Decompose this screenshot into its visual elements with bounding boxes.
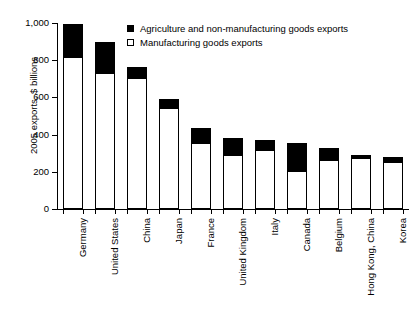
bar-segment-manufacturing [319, 160, 339, 209]
x-tick [319, 209, 320, 214]
bar-group [319, 148, 339, 209]
bars-container [57, 23, 409, 209]
x-tick [223, 209, 224, 214]
x-tick [115, 209, 116, 214]
x-axis-label: Hong Kong, China [365, 218, 376, 296]
bar-segment-manufacturing [95, 73, 115, 209]
x-tick [211, 209, 212, 214]
y-tick-label: 200 [17, 166, 49, 177]
bar-segment-manufacturing [383, 162, 403, 209]
bar-group [287, 143, 307, 209]
bar-segment-agriculture [95, 42, 115, 74]
bar-segment-agriculture [255, 140, 275, 150]
bar-group [95, 42, 115, 209]
x-axis-label: Belgium [333, 218, 344, 252]
bar-segment-agriculture [383, 157, 403, 162]
bar-segment-manufacturing [223, 155, 243, 209]
bar-segment-agriculture [223, 138, 243, 155]
bar-segment-manufacturing [255, 150, 275, 209]
bar-group [255, 140, 275, 209]
x-axis-label: Korea [397, 218, 408, 243]
bar-group [383, 157, 403, 209]
x-tick [83, 209, 84, 214]
x-axis-label: United States [109, 218, 120, 275]
bar-group [159, 99, 179, 209]
y-tick: 0 [52, 209, 57, 210]
x-axis-label: Japan [173, 218, 184, 244]
x-tick [287, 209, 288, 214]
x-tick [383, 209, 384, 214]
legend-label: Manufacturing goods exports [140, 37, 263, 48]
legend-label: Agriculture and non-manufacturing goods … [140, 23, 348, 34]
x-axis-label: Canada [301, 218, 312, 251]
y-tick-label: 800 [17, 54, 49, 65]
x-tick [147, 209, 148, 214]
x-tick [179, 209, 180, 214]
legend-swatch-open-icon [127, 39, 134, 46]
x-tick [95, 209, 96, 214]
x-axis-label: United Kingdom [237, 218, 248, 286]
bar-segment-manufacturing [63, 57, 83, 209]
bar-group [127, 67, 147, 209]
bar-segment-agriculture [191, 128, 211, 143]
x-tick [127, 209, 128, 214]
x-tick [63, 209, 64, 214]
bar-group [351, 155, 371, 209]
y-tick-label: 600 [17, 91, 49, 102]
bar-segment-agriculture [287, 143, 307, 171]
x-tick [191, 209, 192, 214]
y-tick-label: 400 [17, 129, 49, 140]
bar-segment-manufacturing [287, 171, 307, 209]
bar-segment-manufacturing [351, 158, 371, 209]
x-tick [255, 209, 256, 214]
x-tick [307, 209, 308, 214]
bar-segment-manufacturing [127, 78, 147, 209]
y-axis-title: 2005 exports, $ billions [28, 26, 39, 186]
bar-group [223, 138, 243, 209]
bar-segment-agriculture [63, 24, 83, 57]
x-tick [243, 209, 244, 214]
legend-swatch-filled-icon [127, 25, 134, 32]
x-axis-label: France [205, 218, 216, 248]
x-tick [339, 209, 340, 214]
x-axis-label: China [141, 218, 152, 243]
x-axis-line [57, 209, 409, 210]
chart-legend: Agriculture and non-manufacturing goods … [127, 21, 348, 49]
x-tick [371, 209, 372, 214]
legend-item: Manufacturing goods exports [127, 35, 348, 49]
y-tick-label: 0 [17, 203, 49, 214]
y-tick-label: 1,000 [17, 17, 49, 28]
x-axis-label: Germany [77, 218, 88, 257]
x-tick [403, 209, 404, 214]
export-bar-chart: 2005 exports, $ billions 02004006008001,… [0, 0, 417, 323]
bar-segment-agriculture [351, 155, 371, 158]
x-tick [351, 209, 352, 214]
bar-group [191, 128, 211, 209]
bar-segment-manufacturing [191, 143, 211, 209]
legend-item: Agriculture and non-manufacturing goods … [127, 21, 348, 35]
bar-group [63, 24, 83, 209]
x-tick [275, 209, 276, 214]
bar-segment-agriculture [319, 148, 339, 160]
x-tick [159, 209, 160, 214]
plot-area: 02004006008001,000 GermanyUnited StatesC… [57, 23, 409, 209]
x-axis-label: Italy [269, 218, 280, 235]
bar-segment-agriculture [159, 99, 179, 107]
bar-segment-manufacturing [159, 108, 179, 209]
bar-segment-agriculture [127, 67, 147, 78]
